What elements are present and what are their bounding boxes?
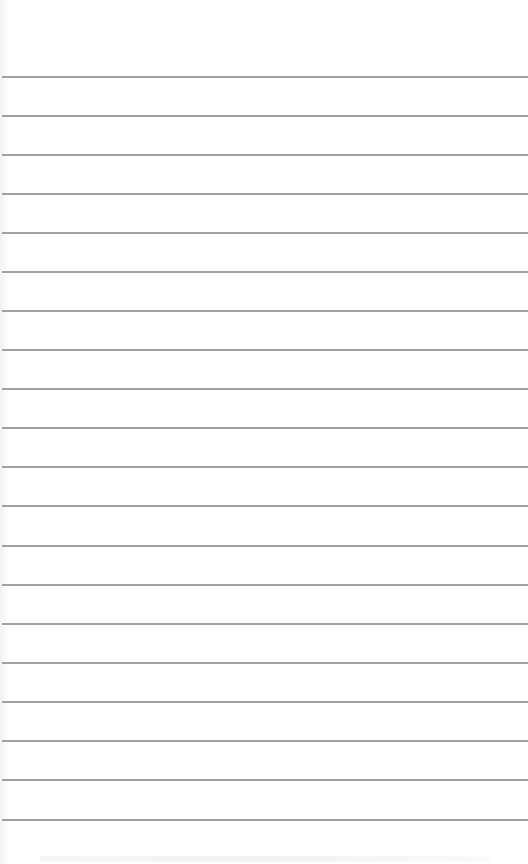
rule-line	[2, 115, 528, 117]
faint-bleed-through	[40, 856, 490, 862]
rule-line	[2, 76, 528, 78]
rule-line	[2, 779, 528, 781]
rule-line	[2, 701, 528, 703]
rule-line	[2, 466, 528, 468]
rule-line	[2, 427, 528, 429]
rule-line	[2, 310, 528, 312]
rule-line	[2, 819, 528, 821]
rule-line	[2, 545, 528, 547]
rule-line	[2, 193, 528, 195]
rule-line	[2, 232, 528, 234]
rule-line	[2, 662, 528, 664]
page-edge-shadow	[0, 0, 8, 864]
rule-line	[2, 505, 528, 507]
rule-line	[2, 154, 528, 156]
rule-line	[2, 623, 528, 625]
rule-line	[2, 584, 528, 586]
rule-line	[2, 740, 528, 742]
rule-line	[2, 271, 528, 273]
rule-line	[2, 349, 528, 351]
rule-line	[2, 388, 528, 390]
ruled-paper-page	[0, 0, 528, 864]
